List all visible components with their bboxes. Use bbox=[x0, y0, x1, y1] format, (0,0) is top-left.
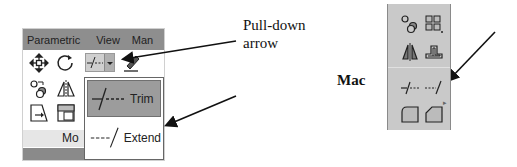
chamfer-icon[interactable] bbox=[424, 104, 444, 124]
fillet-icon[interactable] bbox=[400, 104, 420, 124]
pulldown-annotation: Pull-down arrow bbox=[243, 16, 306, 52]
mac-panel-divider bbox=[388, 67, 450, 68]
mac-annotation: Mac bbox=[337, 72, 365, 89]
offset-icon[interactable] bbox=[424, 42, 444, 62]
mac-expand-arrow[interactable]: ▸ bbox=[443, 99, 447, 103]
extend-arrow-pointer bbox=[167, 96, 236, 125]
rectangular-array-icon[interactable] bbox=[424, 14, 444, 34]
mac-arrow-pointer bbox=[449, 32, 495, 80]
trim-icon[interactable] bbox=[400, 78, 420, 98]
mirror-icon[interactable] bbox=[400, 42, 420, 62]
mac-modify-panel: ▸ bbox=[387, 4, 451, 130]
pulldown-arrow-pointer bbox=[124, 41, 236, 59]
copy-icon[interactable] bbox=[400, 14, 420, 34]
extend-icon[interactable] bbox=[424, 78, 444, 98]
